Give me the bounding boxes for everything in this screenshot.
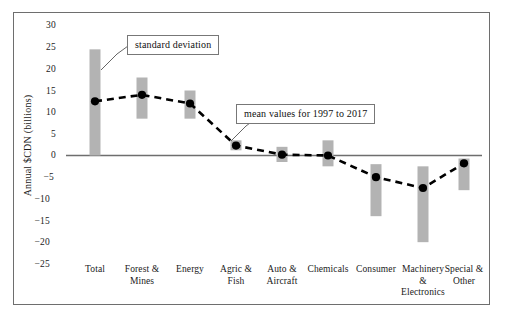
mean-marker [460, 159, 468, 167]
x-tick-line: Electronics [392, 287, 454, 299]
std-dev-bar [418, 166, 429, 242]
chart-figure: Annual $CDN (billions) 30 25 20 15 10 5 … [0, 0, 505, 324]
x-tick-line: Other [437, 276, 491, 288]
mean-marker [372, 173, 380, 181]
mean-marker [419, 184, 427, 192]
annotation-mean-values: mean values for 1997 to 2017 [236, 104, 375, 124]
x-tick-line: Special & [437, 264, 491, 276]
annotation-standard-deviation: standard deviation [127, 35, 219, 55]
mean-marker [91, 97, 99, 105]
mean-marker [278, 151, 286, 159]
x-tick-label-special-other: Special & Other [437, 264, 491, 287]
mean-marker [232, 141, 240, 149]
mean-marker [324, 151, 332, 159]
mean-marker [186, 99, 194, 107]
mean-marker [138, 91, 146, 99]
x-tick-line: Mines [113, 276, 171, 288]
std-dev-bar [371, 164, 382, 216]
x-tick-line: Aircraft [255, 276, 309, 288]
std-dev-bars [90, 49, 470, 242]
std-dev-leader-line [101, 46, 128, 70]
